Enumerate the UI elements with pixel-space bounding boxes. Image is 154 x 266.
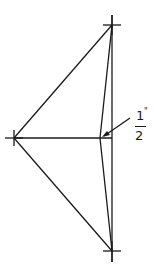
inner-bottom-edge xyxy=(100,138,112,251)
diagram-canvas xyxy=(0,0,154,266)
fraction-bar xyxy=(135,126,146,127)
fraction-denominator: 2 xyxy=(135,129,143,142)
inch-mark: " xyxy=(144,108,148,116)
left-top-edge xyxy=(14,25,112,138)
cross-mark-left xyxy=(5,130,23,146)
left-bottom-edge xyxy=(14,138,112,251)
inner-top-edge xyxy=(100,25,112,138)
